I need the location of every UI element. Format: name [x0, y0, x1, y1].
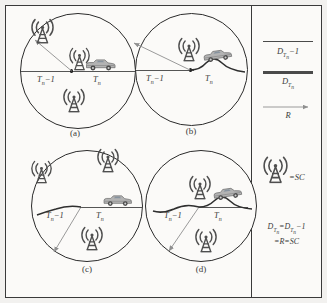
legend-label-dtn-minus-1: DTn−1	[252, 46, 324, 60]
car-icon	[102, 194, 133, 208]
signal-tower-icon	[188, 171, 212, 200]
legend-line-thin	[263, 41, 313, 42]
panel-caption: (a)	[14, 128, 136, 138]
right-region-label: Tn	[93, 74, 101, 86]
panel-d[interactable]: Tn−1 Tn (d)	[142, 148, 260, 298]
legend-label-sc: =SC	[289, 172, 323, 182]
car-icon	[84, 58, 117, 72]
panel-caption: (b)	[132, 126, 250, 136]
car-icon	[202, 49, 233, 63]
right-region-label: Tn	[96, 210, 104, 222]
panels-area: Tn−1 Tn (a)	[6, 6, 252, 297]
legend-equation-line2: =R=SC	[252, 237, 321, 246]
panel-caption: (d)	[142, 264, 260, 274]
left-region-label: Tn−1	[46, 210, 64, 222]
signal-tower-icon	[62, 84, 86, 113]
right-region-label: Tn	[205, 73, 213, 85]
legend-label-dtn: DTn	[252, 76, 324, 90]
left-region-label: Tn−1	[164, 210, 182, 222]
panel-b[interactable]: Tn−1 Tn (b)	[132, 10, 250, 138]
figure-frame: Tn−1 Tn (a)	[5, 5, 322, 298]
signal-tower-icon	[177, 33, 201, 62]
signal-tower-icon	[96, 144, 120, 173]
right-region-label: Tn	[214, 210, 222, 222]
legend-line-thick	[263, 71, 313, 74]
figure-container: Tn−1 Tn (a)	[0, 0, 327, 303]
signal-tower-icon	[30, 156, 53, 184]
panel-c[interactable]: Tn−1 Tn (c)	[28, 148, 146, 298]
car-icon	[212, 187, 243, 201]
panel-a[interactable]: Tn−1 Tn (a)	[14, 10, 136, 138]
signal-tower-icon	[80, 222, 104, 251]
signal-tower-icon	[30, 14, 55, 44]
signal-tower-icon	[194, 224, 218, 253]
legend-label-r: R	[252, 110, 324, 120]
signal-tower-icon	[262, 151, 289, 184]
left-region-label: Tn−1	[37, 74, 55, 86]
legend-equation-line1: DTn=DTn−1	[252, 222, 321, 235]
radius-arrow	[35, 40, 72, 71]
panel-caption: (c)	[28, 264, 146, 274]
left-region-label: Tn−1	[146, 73, 164, 85]
legend-panel: DTn−1 DTn R	[252, 6, 321, 297]
